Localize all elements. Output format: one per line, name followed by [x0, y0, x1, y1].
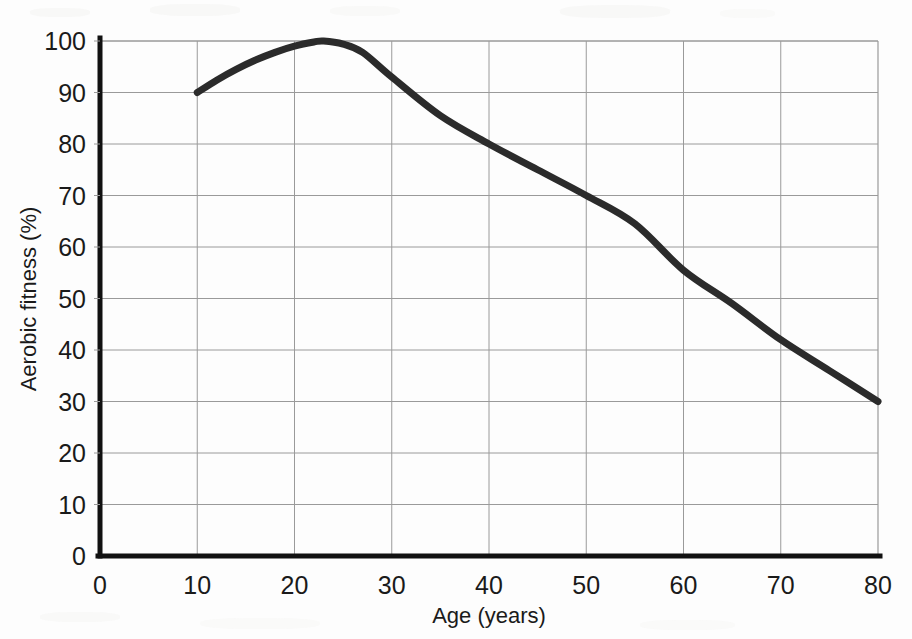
y-tick-label: 40 [58, 336, 86, 364]
x-tick-label: 20 [281, 571, 309, 599]
aerobic-fitness-line-chart: 100 90 80 70 60 50 40 30 20 10 0 0 10 20… [0, 0, 912, 639]
y-tick-label: 90 [58, 79, 86, 107]
y-tick-label: 100 [44, 27, 86, 55]
y-tick-label: 0 [72, 542, 86, 570]
x-tick-label: 0 [93, 571, 107, 599]
y-tick-labels: 100 90 80 70 60 50 40 30 20 10 0 [44, 27, 86, 570]
y-tick-label: 10 [58, 491, 86, 519]
x-tick-label: 50 [572, 571, 600, 599]
x-tick-label: 80 [864, 571, 892, 599]
chart-page: 100 90 80 70 60 50 40 30 20 10 0 0 10 20… [0, 0, 912, 639]
y-tick-label: 50 [58, 285, 86, 313]
x-tick-label: 30 [378, 571, 406, 599]
y-tick-label: 60 [58, 233, 86, 261]
data-series-line [197, 41, 878, 402]
x-tick-label: 60 [670, 571, 698, 599]
x-axis-title: Age (years) [432, 603, 546, 628]
y-tick-label: 80 [58, 130, 86, 158]
y-tick-label: 70 [58, 182, 86, 210]
x-tick-label: 10 [183, 571, 211, 599]
y-axis-title: Aerobic fitness (%) [16, 207, 41, 392]
x-tick-labels: 0 10 20 30 40 50 60 70 80 [93, 571, 892, 599]
x-tick-label: 40 [475, 571, 503, 599]
y-tick-label: 20 [58, 439, 86, 467]
x-tick-label: 70 [767, 571, 795, 599]
y-tick-label: 30 [58, 388, 86, 416]
